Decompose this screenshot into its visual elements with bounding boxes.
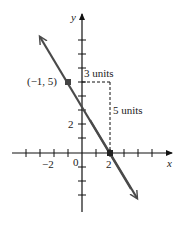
y-tick-label-2: 2	[68, 118, 74, 130]
coordinate-plot: y x 0 −2 2 2 (−1, 5) 3 units 5 units	[0, 0, 181, 226]
point-label: (−1, 5)	[27, 75, 57, 88]
y-axis-label: y	[70, 11, 76, 23]
point-2-0	[107, 150, 113, 156]
x-axis-label: x	[166, 157, 172, 169]
point-neg1-5	[65, 79, 71, 85]
run-label: 3 units	[84, 67, 114, 79]
x-tick-label-neg2: −2	[42, 158, 54, 170]
rise-label: 5 units	[113, 104, 143, 116]
graph-line-lower-arrow	[90, 120, 137, 198]
origin-label: 0	[73, 156, 79, 168]
x-tick-label-2: 2	[106, 158, 112, 170]
